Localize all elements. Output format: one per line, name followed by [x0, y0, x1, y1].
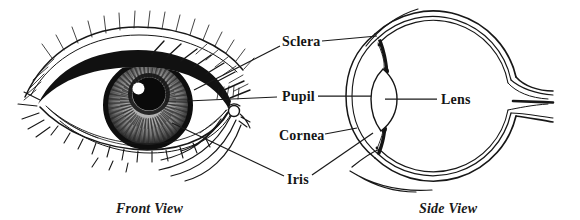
eye-anatomy-diagram: Sclera Pupil Cornea Iris Lens Front View… [0, 0, 580, 220]
pupil-label: Pupil [282, 89, 315, 104]
eye-opening [20, 50, 250, 165]
lens-label: Lens [441, 92, 471, 107]
iris-drawing [104, 61, 192, 149]
iris-label: Iris [287, 172, 309, 187]
diagram-canvas: Sclera Pupil Cornea Iris Lens Front View… [0, 0, 580, 220]
front-view-caption: Front View [115, 201, 183, 216]
pupil-highlight [133, 83, 145, 95]
cornea-leader [325, 128, 357, 134]
sclera-label: Sclera [282, 34, 321, 49]
front-view-illustration [18, 11, 254, 181]
cornea-label: Cornea [279, 128, 325, 143]
side-view-caption: Side View [419, 201, 478, 216]
lens-drawing [371, 69, 397, 131]
tear-duct-caruncle [228, 104, 250, 128]
optic-nerve-drawing [508, 77, 553, 122]
